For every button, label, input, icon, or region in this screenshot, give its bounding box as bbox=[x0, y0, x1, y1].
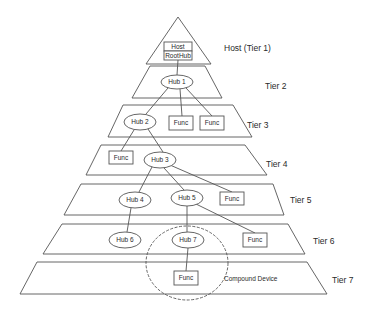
func-label: Func bbox=[114, 154, 129, 161]
tier-2: Tier 2 bbox=[132, 66, 287, 98]
func-t3b-node: Func bbox=[200, 116, 224, 130]
func-label: Func bbox=[225, 195, 240, 202]
hub6-node: Hub 6 bbox=[109, 232, 141, 248]
hub3-node: Hub 3 bbox=[144, 152, 176, 168]
hub-label: Hub 3 bbox=[151, 156, 169, 163]
host-label: Host bbox=[171, 43, 185, 50]
func-label: Func bbox=[205, 119, 220, 126]
tier-label: Tier 4 bbox=[266, 159, 288, 169]
func-t7-node: Func bbox=[174, 271, 198, 285]
hub-label: Hub 6 bbox=[116, 236, 134, 243]
usb-tier-diagram: Tier 2Tier 3Tier 4Tier 5Tier 6Tier 7 Hos… bbox=[0, 0, 369, 325]
hub2-node: Hub 2 bbox=[124, 114, 156, 130]
func-t5-node: Func bbox=[220, 192, 244, 205]
tier-trapezoid bbox=[20, 262, 327, 294]
func-label: Func bbox=[174, 119, 189, 126]
func-label: Func bbox=[179, 274, 194, 281]
hub-label: Hub 7 bbox=[179, 236, 197, 243]
host-tier: HostRootHubHost (Tier 1) bbox=[146, 17, 271, 64]
func-t4-node: Func bbox=[109, 151, 133, 164]
hub7-node: Hub 7 bbox=[172, 232, 204, 248]
hub4-node: Hub 4 bbox=[119, 192, 151, 208]
tier-label: Tier 6 bbox=[313, 236, 335, 246]
roothub-label: RootHub bbox=[165, 52, 191, 59]
hub-label: Hub 5 bbox=[178, 194, 196, 201]
compound-device-label: Compound Device bbox=[224, 275, 278, 283]
tier-label: Tier 5 bbox=[290, 195, 312, 205]
hub5-node: Hub 5 bbox=[171, 190, 203, 206]
tier-label: Tier 2 bbox=[265, 81, 287, 91]
hub-label: Hub 4 bbox=[126, 196, 144, 203]
tier-label: Tier 3 bbox=[247, 120, 269, 130]
tier-label: Tier 7 bbox=[332, 275, 354, 285]
hub1-node: Hub 1 bbox=[161, 75, 193, 89]
func-t3a-node: Func bbox=[169, 116, 193, 130]
hub-label: Hub 2 bbox=[131, 118, 149, 125]
func-t6-node: Func bbox=[243, 233, 267, 247]
func-label: Func bbox=[248, 236, 263, 243]
host-tier-label: Host (Tier 1) bbox=[224, 43, 271, 53]
hub-label: Hub 1 bbox=[168, 78, 186, 85]
